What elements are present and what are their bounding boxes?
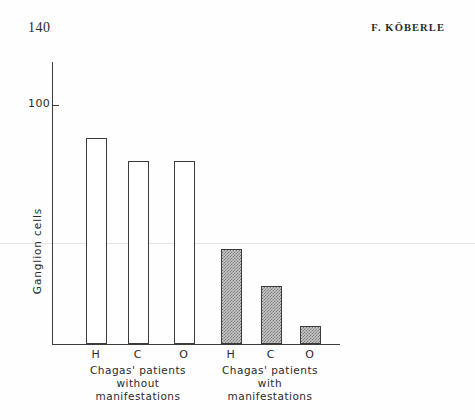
x-tick-label-group2-o: O: [298, 348, 322, 361]
x-tick-label-group2-c: C: [259, 348, 283, 361]
bar-group2-h: [221, 249, 242, 344]
ganglion-cells-bar-chart: 100 Ganglion cells H C O H C O Chagas' p…: [0, 0, 475, 420]
group1-line3: manifestations: [63, 390, 213, 403]
group1-line1: Chagas' patients: [63, 364, 213, 377]
group2-line3: manifestations: [195, 390, 345, 403]
x-axis-line: [52, 344, 340, 345]
bar-group2-o: [300, 326, 321, 344]
group1-line2: without: [63, 377, 213, 390]
y-axis-tick-100: [53, 105, 59, 106]
bar-group1-o: [174, 161, 195, 344]
x-tick-label-group1-h: H: [84, 348, 108, 361]
x-tick-label-group2-h: H: [219, 348, 243, 361]
bar-group1-h: [86, 138, 107, 344]
bar-group2-c: [261, 286, 282, 344]
x-tick-label-group1-o: O: [172, 348, 196, 361]
group-label-with-manifestations: Chagas' patients with manifestations: [195, 364, 345, 403]
group-label-without-manifestations: Chagas' patients without manifestations: [63, 364, 213, 403]
group2-line2: with: [195, 377, 345, 390]
scanned-page: 140 F. KÖBERLE 100 Ganglion cells H C O …: [0, 0, 475, 420]
group2-line1: Chagas' patients: [195, 364, 345, 377]
y-axis-title: Ganglion cells: [31, 201, 43, 301]
y-axis-tick-label-100: 100: [28, 97, 50, 110]
x-tick-label-group1-c: C: [126, 348, 150, 361]
bar-group1-c: [128, 161, 149, 344]
